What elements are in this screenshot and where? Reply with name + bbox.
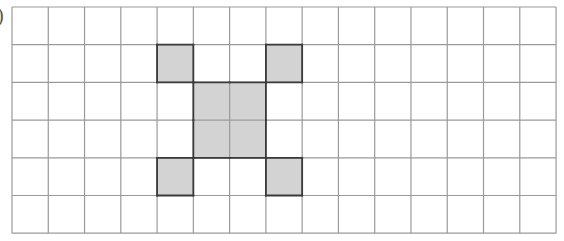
square-grid [0,0,564,241]
grid-lines [12,7,556,233]
bottom-right-square-cell [266,158,302,196]
top-left-square-cell [157,45,193,83]
center-block-cell [193,120,229,158]
center-block-cell [193,82,229,120]
center-block-cell [230,120,266,158]
center-block-cell [230,82,266,120]
top-right-square-cell [266,45,302,83]
bottom-left-square-cell [157,158,193,196]
